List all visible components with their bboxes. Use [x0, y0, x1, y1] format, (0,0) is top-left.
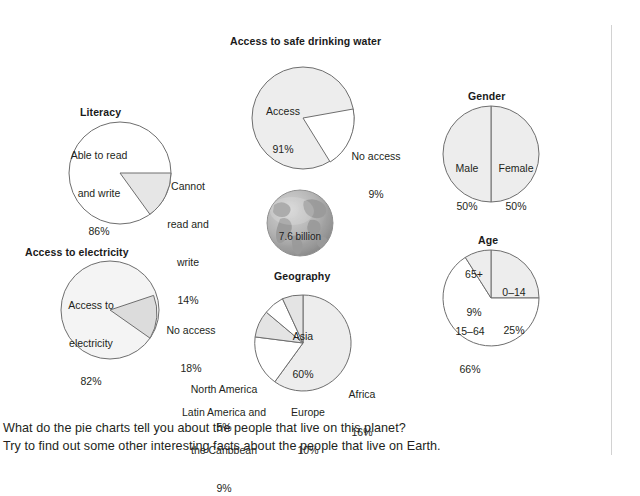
chart-title-literacy: Literacy	[80, 106, 121, 118]
pie-label-age-0-14: 0–14 25%	[492, 261, 536, 362]
pie-label-literacy-able: Able to read and write 86%	[56, 124, 142, 263]
chart-title-geography: Geography	[274, 270, 330, 282]
pie-label-age-65-plus: 65+ 9%	[458, 243, 490, 344]
chart-title-electricity: Access to electricity	[25, 246, 129, 258]
pie-label-gender-male: Male 50%	[446, 137, 488, 238]
pie-label-gender-female: Female 50%	[492, 137, 540, 238]
page-margin-rule	[611, 25, 612, 455]
pie-label-water-access: Access 91%	[252, 80, 314, 181]
footer-question-2: Try to find out some other interesting f…	[3, 438, 441, 455]
chart-title-gender: Gender	[468, 90, 505, 102]
footer-question-1: What do the pie charts tell you about th…	[3, 420, 406, 437]
globe-population-label: 7.6 billion people	[266, 207, 334, 257]
earth-globe-graphic: 7.6 billion people	[266, 189, 334, 257]
pie-label-water-no-access: No access 9%	[343, 125, 409, 226]
chart-title-water: Access to safe drinking water	[230, 35, 381, 47]
pie-label-electricity-access: Access to electricity 82%	[55, 274, 127, 413]
